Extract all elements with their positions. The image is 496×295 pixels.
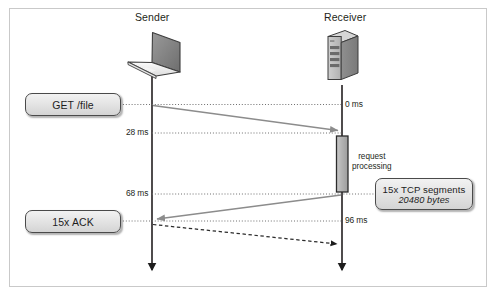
time-label-96ms: 96 ms <box>345 216 367 225</box>
diagram-frame <box>9 8 487 287</box>
callout-get-file-text: GET /file <box>52 99 94 111</box>
time-label-68ms: 68 ms <box>126 189 148 198</box>
request-processing-line1: request <box>352 152 392 162</box>
callout-tcp-segments-line2: 20480 bytes <box>398 195 449 205</box>
time-label-28ms: 28 ms <box>126 128 148 137</box>
diagram-canvas: Sender Receiver 0 ms 28 ms 68 ms 96 ms r… <box>0 0 496 295</box>
request-processing-label: request processing <box>352 152 392 173</box>
callout-ack: 15x ACK <box>25 210 121 233</box>
time-label-0ms: 0 ms <box>345 100 363 109</box>
callout-tcp-segments-line1: 15x TCP segments <box>383 184 466 195</box>
sender-title: Sender <box>135 12 169 23</box>
request-processing-line2: processing <box>352 162 392 172</box>
callout-ack-text: 15x ACK <box>52 216 94 228</box>
callout-get-file: GET /file <box>25 93 121 116</box>
callout-tcp-segments: 15x TCP segments 20480 bytes <box>375 178 473 210</box>
receiver-title: Receiver <box>324 12 366 23</box>
